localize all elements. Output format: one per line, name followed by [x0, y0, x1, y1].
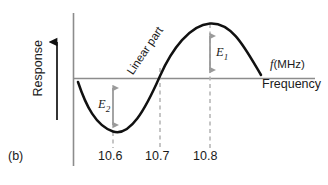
annotation-e2-subscript: 2 — [106, 104, 111, 114]
x-axis-unit-paren: (MHz) — [273, 58, 304, 70]
annotation-e2: E2 — [98, 98, 110, 114]
x-axis-title: Frequency — [262, 78, 321, 91]
annotation-e1-letter: E — [216, 45, 224, 59]
discriminator-response-figure: (b) 10.6 10.7 10.8 f(MHz) Frequency Resp… — [0, 0, 328, 185]
x-tick-label-10-6: 10.6 — [98, 150, 122, 163]
y-axis-title: Response — [32, 23, 45, 113]
annotation-e2-letter: E — [98, 97, 106, 111]
x-tick-label-10-7: 10.7 — [145, 150, 169, 163]
x-tick-label-10-8: 10.8 — [193, 150, 217, 163]
x-axis-unit-label: f(MHz) — [270, 58, 305, 71]
annotation-e1: E1 — [216, 46, 228, 62]
panel-label: (b) — [8, 150, 23, 163]
annotation-e1-subscript: 1 — [224, 52, 229, 62]
